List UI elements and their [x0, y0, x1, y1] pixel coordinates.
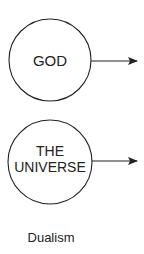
god-label: GOD	[33, 52, 67, 69]
node-universe: THE UNIVERSE	[8, 120, 92, 204]
dualism-diagram: GOD THE UNIVERSE	[0, 0, 144, 254]
universe-label-line1: THE	[36, 143, 64, 159]
diagram-caption: Dualism	[0, 230, 102, 245]
universe-label-line2: UNIVERSE	[14, 159, 86, 175]
node-god: GOD	[9, 19, 91, 101]
